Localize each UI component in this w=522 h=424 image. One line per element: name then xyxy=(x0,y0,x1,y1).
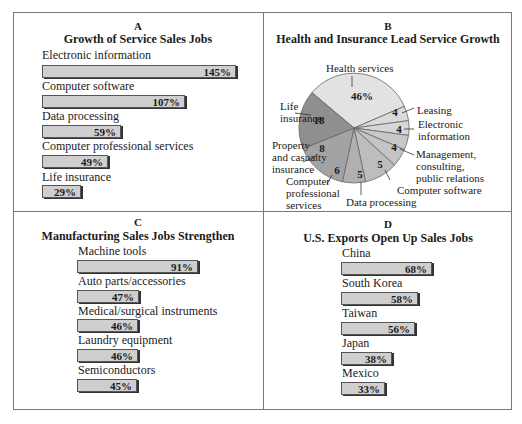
bar-value: 29% xyxy=(54,185,76,199)
panel-c-title: Manufacturing Sales Jobs Strengthen xyxy=(13,229,263,244)
bar-label: Electronic information xyxy=(42,48,151,63)
panel-a-letter: A xyxy=(13,20,263,32)
bar-value: 46% xyxy=(111,349,133,363)
panel-c: C Manufacturing Sales Jobs Strengthen Ma… xyxy=(13,212,263,410)
bar-value: 46% xyxy=(111,319,133,333)
bar: 59% xyxy=(42,125,121,138)
pie-label-leasing: Leasing xyxy=(417,104,452,116)
bar-value: 38% xyxy=(365,352,387,366)
bar-value: 145% xyxy=(204,65,232,79)
svg-text:4: 4 xyxy=(392,106,398,118)
bar-label: Semiconductors xyxy=(78,363,155,378)
bar: 47% xyxy=(77,290,139,303)
bar: 45% xyxy=(77,379,137,392)
bar-value: 45% xyxy=(110,379,132,393)
bar: 56% xyxy=(341,322,415,335)
bar-label: Taiwan xyxy=(342,306,377,321)
bar-value: 107% xyxy=(153,95,181,109)
bar-label: South Korea xyxy=(342,276,402,291)
bar-label: Life insurance xyxy=(42,170,111,185)
svg-text:46%: 46% xyxy=(351,90,373,102)
pie-label-computer-professional-services: Computer professional services xyxy=(286,175,340,211)
pie-label-life-insurance: Life insurance xyxy=(280,100,322,124)
panel-c-letter: C xyxy=(13,216,263,228)
bar-value: 58% xyxy=(391,292,413,306)
bar-label: Computer software xyxy=(42,79,134,94)
bar-value: 68% xyxy=(405,262,427,276)
bar-value: 59% xyxy=(94,125,116,139)
bar-label: Japan xyxy=(342,336,369,351)
bar: 49% xyxy=(42,155,108,168)
bar: 29% xyxy=(42,185,81,198)
svg-text:5: 5 xyxy=(377,158,383,170)
svg-text:4: 4 xyxy=(391,141,397,153)
bar: 68% xyxy=(341,262,432,275)
bar-label: Machine tools xyxy=(78,244,146,259)
bar: 145% xyxy=(42,65,236,78)
pie-label-data-processing: Data processing xyxy=(346,196,417,208)
bar: 38% xyxy=(341,352,392,365)
bar: 46% xyxy=(77,319,138,332)
pie-label-health-services: Health services xyxy=(326,62,394,74)
bar: 91% xyxy=(77,260,198,273)
pie-label-management: Management, consulting, public relations xyxy=(416,148,484,184)
bar-value: 33% xyxy=(358,382,380,396)
svg-text:4: 4 xyxy=(396,123,402,135)
bar: 107% xyxy=(42,95,185,108)
bar-value: 91% xyxy=(171,260,193,274)
bar-label: Medical/surgical instruments xyxy=(78,304,217,319)
panel-a-title: Growth of Service Sales Jobs xyxy=(13,32,263,47)
bar-label: China xyxy=(342,246,371,261)
bar-value: 49% xyxy=(81,155,103,169)
bar: 33% xyxy=(341,382,385,395)
panel-a: A Growth of Service Sales Jobs Electroni… xyxy=(13,12,263,211)
bar-label: Computer professional services xyxy=(42,139,193,154)
svg-text:5: 5 xyxy=(357,168,363,180)
bar: 46% xyxy=(77,349,138,362)
bar-label: Laundry equipment xyxy=(78,333,172,348)
bar: 58% xyxy=(341,292,418,305)
panel-d-title: U.S. Exports Open Up Sales Jobs xyxy=(264,231,512,246)
bar-value: 47% xyxy=(112,290,134,304)
pie-label-property-casualty: Property and casualty insurance xyxy=(272,139,327,175)
panel-d: D U.S. Exports Open Up Sales Jobs China … xyxy=(264,212,512,410)
pie-label-computer-software: Computer software xyxy=(397,184,482,196)
bar-label: Mexico xyxy=(342,366,379,381)
panel-b: B Health and Insurance Lead Service Grow… xyxy=(264,12,512,211)
panel-d-letter: D xyxy=(264,218,512,230)
pie-label-electronic-information: Electronic information xyxy=(418,118,470,142)
bar-value: 56% xyxy=(388,322,410,336)
bar-label: Data processing xyxy=(42,109,119,124)
bar-label: Auto parts/accessories xyxy=(78,274,186,289)
